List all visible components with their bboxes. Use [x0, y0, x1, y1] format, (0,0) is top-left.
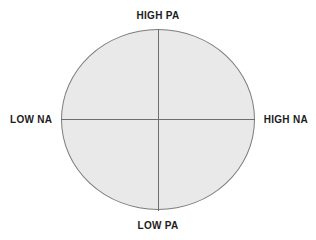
vertical-axis-line [158, 29, 159, 211]
axis-label-low-na: LOW NA [10, 114, 52, 126]
axis-label-high-pa: HIGH PA [0, 10, 316, 22]
circumplex-diagram: HIGH PA LOW NA HIGH NA LOW PA [0, 0, 316, 240]
axis-label-high-na: HIGH NA [264, 114, 308, 126]
axis-label-low-pa: LOW PA [0, 220, 316, 232]
horizontal-axis-line [61, 119, 255, 120]
